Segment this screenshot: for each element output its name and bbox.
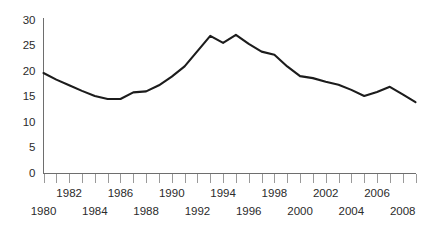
x-tick-label: 1984 [82,205,108,217]
y-tick-label: 15 [23,90,36,102]
y-tick-label: 10 [23,116,36,128]
x-axis-tick-marks [45,174,417,183]
x-tick-label: 1988 [133,205,159,217]
y-axis-tick-labels: 051015202530 [23,14,36,179]
x-tick-label: 1986 [108,187,134,199]
x-axis-tick-labels-lower: 19801984198819921996200020042008 [31,205,416,217]
x-tick-label: 1992 [185,205,211,217]
x-tick-label: 1998 [262,187,288,199]
x-axis-tick-labels-upper: 1982198619901994199820022006 [56,187,389,199]
y-tick-label: 25 [23,39,36,51]
x-tick-label: 1996 [236,205,262,217]
data-series-line [44,35,416,102]
y-tick-label: 30 [23,14,36,26]
y-tick-label: 20 [23,65,36,77]
y-tick-label: 5 [29,141,35,153]
line-chart: 051015202530 198219861990199419982002200… [0,0,439,234]
x-tick-label: 1980 [31,205,57,217]
x-tick-label: 1990 [159,187,185,199]
x-tick-label: 2000 [287,205,313,217]
x-tick-label: 2006 [364,187,390,199]
x-tick-label: 1982 [56,187,82,199]
x-tick-label: 2002 [313,187,339,199]
x-tick-label: 2008 [390,205,416,217]
y-tick-label: 0 [29,167,35,179]
chart-plot-area: 051015202530 198219861990199419982002200… [0,0,439,234]
x-tick-label: 1994 [210,187,236,199]
x-tick-label: 2004 [339,205,365,217]
